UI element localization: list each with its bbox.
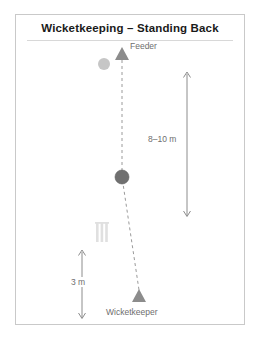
wicketkeeper-marker-triangle[interactable] [132, 289, 146, 302]
distance-short-label: 3 m [69, 277, 87, 287]
wicketkeeper-label: Wicketkeeper [106, 307, 158, 317]
batter-ball-circle[interactable] [115, 170, 129, 184]
stumps-icon [95, 222, 109, 242]
feeder-marker-triangle[interactable] [115, 47, 129, 60]
field-diagram-svg [0, 0, 261, 346]
delivery-ball-circle[interactable] [98, 58, 110, 70]
distance-long-label: 8–10 m [146, 134, 178, 144]
diagram-root: Wicketkeeping – Standing Back [0, 0, 261, 346]
feeder-label: Feeder [130, 41, 157, 51]
distance-arrow-8-10m [184, 72, 191, 217]
